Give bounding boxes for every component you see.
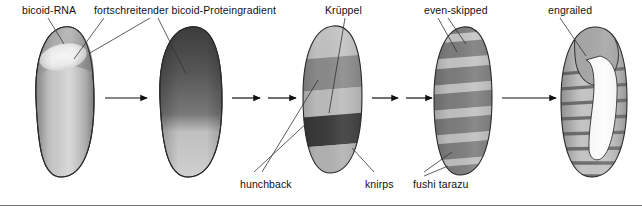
embryo-2-shading [160,27,222,177]
embryo-1-shading [36,27,94,177]
embryo-4 [428,16,502,184]
embryo-5 [556,18,634,184]
label-hunchback: hunchback [240,178,292,190]
embryo-5-body-group [556,18,634,184]
embryo-1 [36,27,94,177]
leader-fushi-tarazu-2 [424,166,448,176]
label-kruppel: Krüppel [325,4,362,16]
embryo-3 [296,20,370,182]
label-fushi-tarazu: fushi tarazu [413,178,468,190]
embryo-5-shading [556,18,634,184]
leader-hunchback [254,120,310,172]
figure-drosophila-segmentation: bicoid-RNA fortschreitender bicoid-Prote… [0,0,642,206]
label-engrailed: engrailed [548,4,592,16]
embryo-4-stripes [428,16,502,184]
figure-bottom-border [0,205,642,206]
label-bicoid-rna: bicoid-RNA [22,4,76,16]
label-even-skipped: even-skipped [424,4,488,16]
embryo-2 [160,27,222,177]
embryo-3-shading [296,20,370,182]
label-knirps: knirps [365,178,394,190]
leader-gradient-to-e1 [90,18,150,53]
leader-knirps [352,148,374,172]
figure-canvas [0,0,642,206]
label-bicoid-proteingradient: fortschreitender bicoid-Proteingradient [94,4,276,16]
embryo-3-bands [296,20,370,182]
